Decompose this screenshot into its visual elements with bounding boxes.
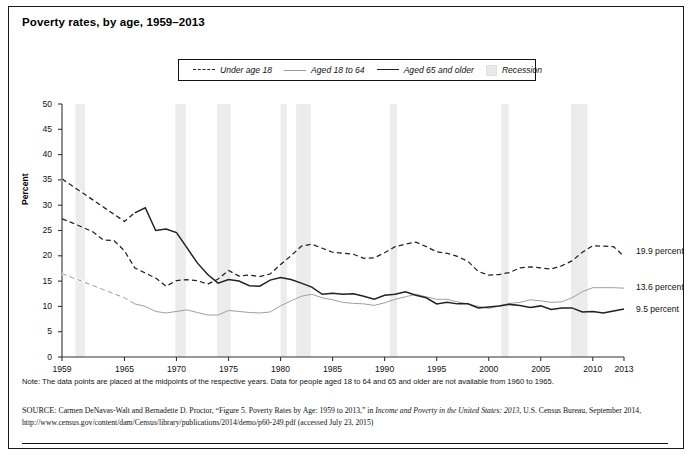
y-axis-tick-label: 5 [30, 326, 52, 336]
x-axis-tick-label: 1995 [417, 364, 457, 374]
series-line-aged-65-and-older [62, 179, 624, 313]
chart-plot-area: 0510152025303540455019591965197019751980… [0, 0, 694, 457]
recession-band [175, 104, 185, 357]
recession-band [390, 104, 397, 357]
axis-lines [62, 104, 624, 357]
y-axis-tick-label: 30 [30, 200, 52, 210]
end-value-label: 19.9 percent [636, 246, 684, 256]
figure-note: Note: The data points are placed at the … [22, 377, 668, 387]
x-axis-tick-label: 2000 [469, 364, 509, 374]
y-axis-tick-label: 45 [30, 124, 52, 134]
recession-band [571, 104, 588, 357]
recession-band [501, 104, 508, 357]
x-axis-tick-label: 1990 [365, 364, 405, 374]
source-italic-title: Income and Poverty in the United States:… [375, 406, 519, 415]
x-axis-tick-label: 1985 [313, 364, 353, 374]
figure-source: SOURCE: Carmen DeNavas-Walt and Bernadet… [22, 405, 668, 428]
series-line-under-age-18 [62, 219, 624, 286]
x-axis-tick-label: 1965 [104, 364, 144, 374]
recession-band [76, 104, 85, 357]
end-value-label: 13.6 percent [636, 282, 684, 292]
y-axis-tick-label: 10 [30, 301, 52, 311]
y-axis-tick-label: 25 [30, 225, 52, 235]
x-axis-tick-label: 1959 [42, 364, 82, 374]
x-axis-tick-label: 1975 [209, 364, 249, 374]
end-value-label: 9.5 percent [636, 304, 679, 314]
x-axis-tick-label: 1970 [156, 364, 196, 374]
recession-band [281, 104, 287, 357]
y-axis-tick-label: 50 [30, 99, 52, 109]
x-axis-tick-label: 1980 [261, 364, 301, 374]
y-axis-tick-label: 20 [30, 250, 52, 260]
recession-band [217, 104, 231, 357]
y-axis-tick-label: 0 [30, 352, 52, 362]
figure-page: Poverty rates, by age, 1959–2013 Under a… [0, 0, 694, 457]
x-axis-tick-label: 2013 [604, 364, 644, 374]
y-axis-tick-label: 35 [30, 174, 52, 184]
x-axis-tick-label: 2005 [521, 364, 561, 374]
source-divider [22, 443, 668, 444]
y-axis-tick-label: 15 [30, 276, 52, 286]
chart-svg [0, 0, 694, 457]
source-text-1: Carmen DeNavas-Walt and Bernadette D. Pr… [57, 406, 376, 415]
y-axis-tick-label: 40 [30, 149, 52, 159]
recession-band [296, 104, 311, 357]
source-prefix: SOURCE: [22, 406, 57, 415]
